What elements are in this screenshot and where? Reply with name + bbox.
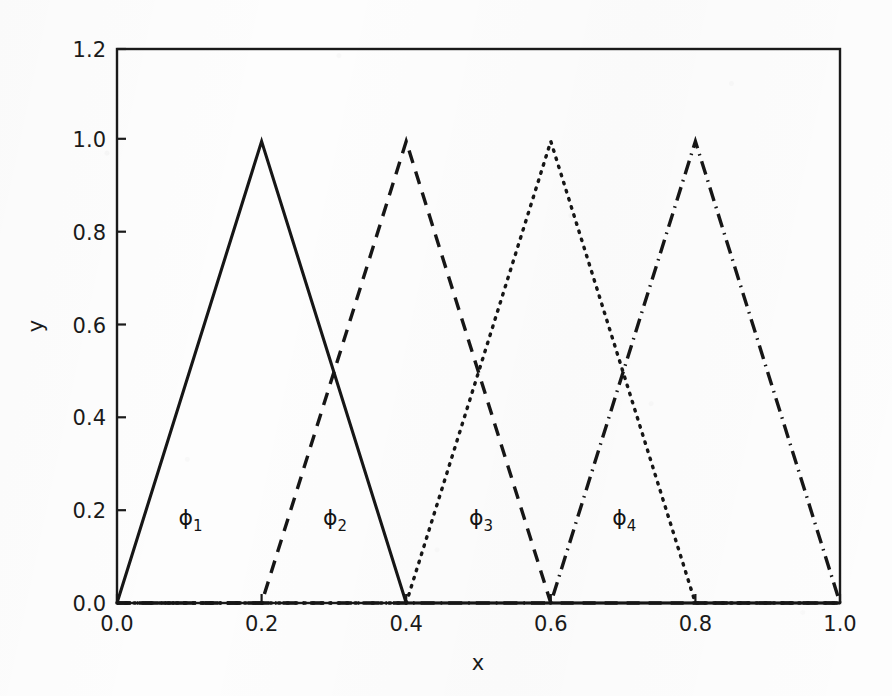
x-tick-label-2: 0.4 bbox=[389, 612, 422, 636]
y-axis-title: y bbox=[24, 320, 48, 332]
curve-annotations: ϕ1 ϕ2 ϕ3 ϕ4 bbox=[179, 505, 637, 535]
y-tick-label-4: 0.8 bbox=[73, 221, 106, 245]
y-tick-label-2: 0.4 bbox=[73, 406, 106, 430]
curve-label-phi-1: ϕ1 bbox=[179, 505, 203, 535]
phi-3-subscript: 3 bbox=[484, 517, 494, 535]
y-tick-label-1: 0.2 bbox=[73, 499, 106, 523]
phi-2-subscript: 2 bbox=[338, 517, 348, 535]
x-tick-label-5: 1.0 bbox=[823, 612, 856, 636]
x-tick-label-1: 0.2 bbox=[245, 612, 278, 636]
curve-phi-2 bbox=[117, 141, 840, 603]
curve-group bbox=[117, 141, 840, 603]
phi-2-symbol: ϕ bbox=[323, 505, 338, 530]
figure-page: 0.0 0.2 0.4 0.6 0.8 1.0 0.0 0.2 0.4 0.6 … bbox=[0, 0, 892, 696]
hat-basis-function-chart: 0.0 0.2 0.4 0.6 0.8 1.0 0.0 0.2 0.4 0.6 … bbox=[0, 0, 892, 696]
y-tick-label-6: 1.2 bbox=[73, 38, 106, 62]
curve-label-phi-2: ϕ2 bbox=[323, 505, 347, 535]
phi-1-subscript: 1 bbox=[193, 517, 203, 535]
phi-4-symbol: ϕ bbox=[612, 505, 627, 530]
x-axis-tick-labels: 0.0 0.2 0.4 0.6 0.8 1.0 bbox=[100, 612, 856, 636]
curve-label-phi-3: ϕ3 bbox=[469, 505, 493, 535]
x-axis-title: x bbox=[472, 651, 484, 675]
phi-3-symbol: ϕ bbox=[469, 505, 484, 530]
y-tick-label-3: 0.6 bbox=[73, 314, 106, 338]
phi-1-symbol: ϕ bbox=[179, 505, 194, 530]
y-tick-label-5: 1.0 bbox=[73, 128, 106, 152]
y-tick-label-0: 0.0 bbox=[73, 592, 106, 616]
x-tick-label-4: 0.8 bbox=[679, 612, 712, 636]
x-tick-label-3: 0.6 bbox=[534, 612, 567, 636]
y-axis-ticks bbox=[117, 49, 126, 603]
y-axis-tick-labels: 0.0 0.2 0.4 0.6 0.8 1.0 1.2 bbox=[73, 38, 106, 616]
curve-label-phi-4: ϕ4 bbox=[612, 505, 636, 535]
phi-4-subscript: 4 bbox=[627, 517, 637, 535]
